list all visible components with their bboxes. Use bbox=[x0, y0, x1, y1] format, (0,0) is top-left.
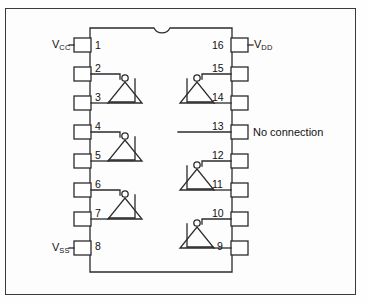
pin-lead-16 bbox=[231, 38, 248, 52]
pin-number-7: 7 bbox=[95, 207, 101, 219]
pin-lead-12 bbox=[231, 154, 248, 168]
inverter-gate-6 bbox=[180, 219, 231, 248]
pin-number-3: 3 bbox=[95, 91, 101, 103]
pin-number-16: 16 bbox=[212, 39, 224, 51]
vss-label-subscript: SS bbox=[59, 246, 69, 255]
diagram-root: 1 2 3 4 5 6 7 8 16 15 14 13 12 11 10 9 V… bbox=[0, 0, 367, 303]
pin-number-9: 9 bbox=[217, 240, 223, 252]
pin-lead-3 bbox=[74, 96, 91, 110]
pin-lead-9 bbox=[231, 241, 248, 255]
pin-number-14: 14 bbox=[212, 91, 224, 103]
pin-lead-1 bbox=[74, 38, 91, 52]
pin-lead-13 bbox=[231, 125, 248, 139]
pin-lead-10 bbox=[231, 212, 248, 226]
pin-number-12: 12 bbox=[212, 149, 224, 161]
pin-lead-6 bbox=[74, 183, 91, 197]
pin-number-5: 5 bbox=[95, 149, 101, 161]
chip-body-outline bbox=[90, 28, 232, 272]
pin-number-2: 2 bbox=[95, 62, 101, 74]
pin-lead-7 bbox=[74, 212, 91, 226]
vcc-label: VCC bbox=[52, 38, 71, 50]
no-connection-label: No connection bbox=[253, 126, 323, 138]
pin-number-6: 6 bbox=[95, 178, 101, 190]
pin-lead-15 bbox=[231, 67, 248, 81]
vcc-label-subscript: CC bbox=[59, 43, 70, 52]
pin-number-4: 4 bbox=[95, 120, 101, 132]
vdd-label: VDD bbox=[254, 38, 273, 50]
pin-lead-11 bbox=[231, 183, 248, 197]
pin-number-10: 10 bbox=[212, 207, 224, 219]
pin-lead-4 bbox=[74, 125, 91, 139]
pin-lead-2 bbox=[74, 67, 91, 81]
pin-number-15: 15 bbox=[212, 62, 224, 74]
vdd-label-subscript: DD bbox=[261, 43, 272, 52]
pin-lead-8 bbox=[74, 241, 91, 255]
pin-number-8: 8 bbox=[95, 240, 101, 252]
inverter-gate-5 bbox=[180, 161, 231, 190]
pin-number-11: 11 bbox=[212, 178, 223, 190]
vss-label: VSS bbox=[52, 241, 70, 253]
pin-lead-14 bbox=[231, 96, 248, 110]
pin-number-1: 1 bbox=[95, 39, 101, 51]
pin-number-13: 13 bbox=[212, 120, 224, 132]
pin-lead-5 bbox=[74, 154, 91, 168]
